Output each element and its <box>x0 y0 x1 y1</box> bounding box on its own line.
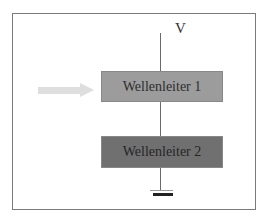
waveguide-1-block: Wellenleiter 1 <box>101 71 223 102</box>
waveguide-1-label: Wellenleiter 1 <box>123 79 202 95</box>
diagram-frame <box>12 13 256 210</box>
ground-bar <box>153 193 173 196</box>
voltage-label: V <box>175 20 186 37</box>
ground-line <box>150 190 173 191</box>
input-arrow-icon <box>38 83 94 97</box>
waveguide-2-label: Wellenleiter 2 <box>123 144 202 160</box>
waveguide-2-block: Wellenleiter 2 <box>101 136 223 168</box>
